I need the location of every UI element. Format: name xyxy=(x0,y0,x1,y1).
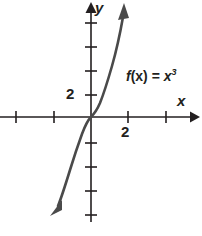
curve-arrowhead-top xyxy=(118,3,129,20)
y-axis-label: y xyxy=(95,0,103,15)
x-axis-tick-label-2: 2 xyxy=(121,124,129,139)
function-exponent: 3 xyxy=(172,67,177,77)
function-equation-label: f(x) = x3 xyxy=(126,68,177,83)
x-axis-arrowhead xyxy=(190,112,200,123)
x-axis-label: x xyxy=(177,93,185,108)
x-axis xyxy=(0,111,200,123)
cubic-curve xyxy=(50,3,129,216)
y-axis-tick-label-2: 2 xyxy=(66,86,74,101)
graph-figure: y x 2 2 f(x) = x3 xyxy=(0,0,202,236)
coordinate-plane xyxy=(0,0,202,236)
function-arg-equals: (x) = xyxy=(131,68,164,84)
function-variable: x xyxy=(164,68,172,84)
